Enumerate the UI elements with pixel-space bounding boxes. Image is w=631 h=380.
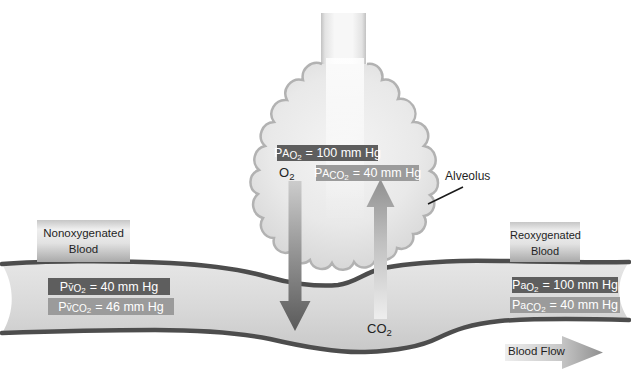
symbol-gas-sub: 2 — [344, 170, 348, 186]
reoxygenated-blood-label: Reoxygenated Blood — [510, 222, 580, 262]
blood-label-line1: Nonoxygenated — [37, 225, 130, 241]
symbol-gas: O — [526, 280, 534, 296]
symbol-p: P — [314, 165, 322, 181]
alveolar-po2-badge: PAO2= 100 mm Hg — [277, 145, 378, 161]
nonoxygenated-blood-label: Nonoxygenated Blood — [37, 220, 130, 262]
venous-po2-badge: Pv̄O2= 40 mm Hg — [48, 278, 170, 295]
symbol-p: P — [512, 297, 520, 313]
symbol-mod: A — [282, 145, 289, 161]
symbol-gas-sub: 2 — [297, 150, 301, 166]
symbol-gas-sub: 2 — [534, 282, 538, 298]
gas-name: CO — [367, 321, 387, 336]
venous-pco2-badge: Pv̄CO2= 46 mm Hg — [48, 298, 174, 315]
symbol-gas-sub: 2 — [81, 283, 85, 299]
gas-name-sub: 2 — [289, 171, 294, 182]
alveolar-pco2-badge: PACO2= 40 mm Hg — [316, 165, 419, 181]
pressure-value: = 40 mm Hg — [353, 165, 421, 181]
symbol-mod: A — [322, 165, 329, 181]
alveolus-highlight — [326, 58, 364, 218]
symbol-gas-sub: 2 — [87, 303, 91, 319]
gas-name-sub: 2 — [387, 327, 392, 338]
pressure-value: = 40 mm Hg — [90, 279, 158, 295]
pressure-value: = 100 mm Hg — [306, 145, 381, 161]
arterial-pco2-badge: PaCO2= 40 mm Hg — [510, 297, 620, 313]
blood-flow-label: Blood Flow — [508, 345, 565, 357]
alveolus-label: Alveolus — [445, 169, 490, 183]
symbol-gas: CO — [329, 168, 344, 184]
co2-label: CO2 — [367, 321, 392, 336]
symbol-gas: CO — [72, 301, 87, 317]
arterial-po2-badge: PaO2= 100 mm Hg — [512, 277, 618, 293]
symbol-gas: O — [73, 281, 81, 297]
o2-label: O2 — [279, 165, 294, 180]
symbol-gas: CO — [526, 300, 541, 316]
symbol-p: P — [60, 279, 68, 295]
pressure-value: = 40 mm Hg — [550, 297, 618, 313]
symbol-p: P — [58, 299, 66, 315]
blood-label-line2: Blood — [510, 243, 580, 259]
diagram-canvas — [0, 0, 631, 380]
symbol-gas: O — [289, 148, 297, 164]
pressure-value: = 100 mm Hg — [543, 277, 618, 293]
blood-label-line1: Reoxygenated — [510, 227, 580, 243]
symbol-p: P — [512, 277, 520, 293]
gas-exchange-diagram: PAO2= 100 mm Hg PACO2= 40 mm Hg O2 CO2 N… — [0, 0, 631, 380]
pressure-value: = 46 mm Hg — [95, 299, 163, 315]
blood-label-line2: Blood — [37, 241, 130, 257]
gas-name: O — [279, 165, 289, 180]
symbol-p: P — [274, 145, 282, 161]
symbol-gas-sub: 2 — [541, 302, 545, 318]
